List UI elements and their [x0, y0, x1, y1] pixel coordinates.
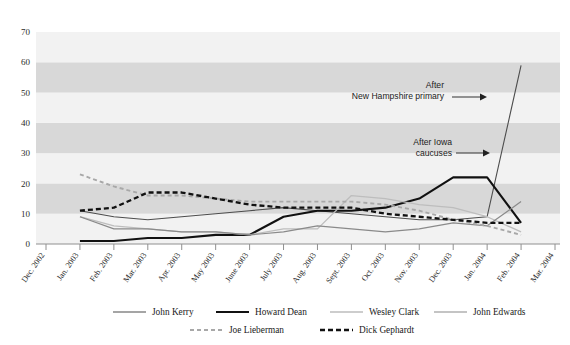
- svg-text:Feb. 2004: Feb. 2004: [495, 250, 522, 283]
- grid-band: [36, 123, 560, 153]
- x-axis-tick-label: Jan. 2003: [55, 251, 81, 282]
- legend-item[interactable]: Wesley Clark: [330, 307, 419, 317]
- svg-text:Feb. 2003: Feb. 2003: [88, 251, 114, 283]
- legend-item[interactable]: Joe Lieberman: [190, 325, 284, 335]
- y-axis-tick-labels: 010203040506070: [21, 27, 31, 249]
- x-axis-tick-label: Apr. 2003: [156, 251, 182, 283]
- axis-lines: [36, 244, 560, 250]
- svg-text:Mar. 2003: Mar. 2003: [122, 251, 149, 284]
- legend-label: John Edwards: [473, 307, 526, 317]
- legend-label: Howard Dean: [255, 307, 307, 317]
- grid-band: [36, 153, 560, 183]
- svg-text:Sept. 2003: Sept. 2003: [324, 251, 352, 285]
- svg-text:May 2003: May 2003: [189, 251, 216, 284]
- legend-item[interactable]: John Edwards: [434, 307, 526, 317]
- svg-text:Nov. 2003: Nov. 2003: [393, 251, 420, 284]
- chart-canvas: 010203040506070 Dec. 2002Jan. 2003Feb. 2…: [0, 0, 570, 345]
- legend-label: Dick Gephardt: [359, 325, 414, 335]
- x-axis-tick-label: Feb. 2003: [88, 251, 114, 283]
- x-axis-tick-label: Oct. 2003: [360, 251, 386, 283]
- annotation-text-line: caucuses: [416, 148, 452, 158]
- annotation-text-line: After Iowa: [413, 137, 452, 147]
- legend-item[interactable]: Howard Dean: [216, 307, 307, 317]
- y-axis-tick-label: 60: [21, 57, 31, 67]
- poll-line-chart: 010203040506070 Dec. 2002Jan. 2003Feb. 2…: [0, 0, 570, 345]
- svg-text:Aug. 2003: Aug. 2003: [291, 251, 318, 285]
- x-axis-tick-label: Dec. 2002: [20, 251, 47, 284]
- y-axis-tick-label: 30: [21, 148, 31, 158]
- y-axis-tick-label: 70: [21, 27, 31, 37]
- svg-text:July 2003: July 2003: [258, 251, 284, 283]
- svg-text:Apr. 2003: Apr. 2003: [156, 251, 182, 283]
- legend-item[interactable]: John Kerry: [113, 307, 194, 317]
- y-axis-tick-label: 0: [26, 239, 31, 249]
- legend-label: Wesley Clark: [369, 307, 419, 317]
- legend-label: John Kerry: [152, 307, 194, 317]
- legend-item[interactable]: Dick Gephardt: [320, 325, 414, 335]
- y-axis-tick-label: 50: [21, 88, 31, 98]
- x-axis-tick-label: Mar. 2004: [529, 250, 556, 284]
- y-axis-tick-label: 20: [21, 179, 31, 189]
- svg-text:Mar. 2004: Mar. 2004: [529, 250, 556, 284]
- x-axis-tick-label: Jan. 2004: [462, 250, 488, 282]
- y-axis-tick-label: 10: [21, 209, 31, 219]
- x-axis-tick-label: May 2003: [189, 251, 216, 284]
- x-axis-tick-labels: Dec. 2002Jan. 2003Feb. 2003Mar. 2003Apr.…: [20, 250, 556, 285]
- svg-text:Dec. 2003: Dec. 2003: [427, 251, 454, 284]
- x-axis-tick-label: Dec. 2003: [427, 251, 454, 284]
- x-axis-tick-label: Nov. 2003: [393, 251, 420, 284]
- legend-label: Joe Lieberman: [229, 325, 284, 335]
- x-axis-tick-label: Sept. 2003: [324, 251, 352, 285]
- gridline-band-layer: [36, 32, 560, 244]
- chart-legend: John KerryHoward DeanWesley ClarkJohn Ed…: [113, 307, 526, 335]
- y-axis-tick-label: 40: [21, 118, 31, 128]
- x-axis-tick-label: Feb. 2004: [495, 250, 522, 283]
- svg-text:Jan. 2003: Jan. 2003: [55, 251, 81, 282]
- grid-band: [36, 32, 560, 62]
- svg-text:Dec. 2002: Dec. 2002: [20, 251, 47, 284]
- svg-text:Jan. 2004: Jan. 2004: [462, 250, 488, 282]
- annotation-text-line: After: [426, 80, 444, 90]
- x-axis-tick-label: Aug. 2003: [291, 251, 318, 285]
- x-axis-tick-label: Mar. 2003: [122, 251, 149, 284]
- svg-text:June 2003: June 2003: [223, 251, 250, 284]
- svg-text:Oct. 2003: Oct. 2003: [360, 251, 386, 283]
- x-axis-tick-label: July 2003: [258, 251, 284, 283]
- x-axis-tick-label: June 2003: [223, 251, 250, 284]
- grid-band: [36, 62, 560, 92]
- annotation-text-line: New Hampshire primary: [352, 91, 445, 101]
